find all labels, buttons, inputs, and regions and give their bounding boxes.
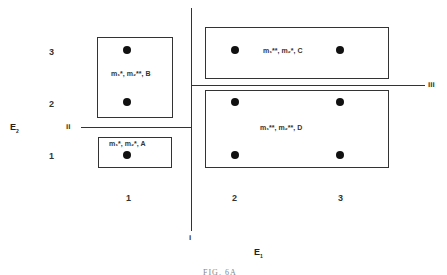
x-tick-2: 2 [232, 193, 237, 203]
divider-i-line [191, 8, 192, 231]
x-tick-1: 1 [126, 193, 131, 203]
divider-i-label: i [189, 233, 191, 242]
divider-iii-label: iii [428, 80, 435, 89]
data-point-1-1 [123, 151, 131, 159]
data-point-3-2 [336, 98, 344, 106]
region-b-box [97, 37, 173, 118]
divider-ii-label: ii [66, 122, 70, 131]
y-tick-2: 2 [49, 99, 54, 109]
data-point-3-1 [336, 151, 344, 159]
divider-iii-line [191, 85, 425, 86]
region-b-label: m₁*, m₂**, B [111, 70, 150, 77]
y-tick-1: 1 [49, 151, 54, 161]
region-d-label: m₁**, m₂**, D [260, 124, 302, 131]
data-point-3-3 [336, 46, 344, 54]
region-a-label: m₁*, m₂*, A [109, 140, 145, 147]
data-point-2-3 [231, 46, 239, 54]
y-tick-3: 3 [49, 47, 54, 57]
figure-caption: FIG. 6A [203, 268, 237, 275]
data-point-1-3 [123, 46, 131, 54]
y-axis-label: E2 [10, 122, 19, 134]
data-point-1-2 [123, 98, 131, 106]
divider-ii-line [81, 127, 191, 128]
x-axis-label: E1 [254, 247, 263, 259]
region-c-label: m₁**, m₂*, C [263, 47, 302, 54]
data-point-2-2 [231, 98, 239, 106]
data-point-2-1 [231, 151, 239, 159]
x-tick-3: 3 [338, 193, 343, 203]
